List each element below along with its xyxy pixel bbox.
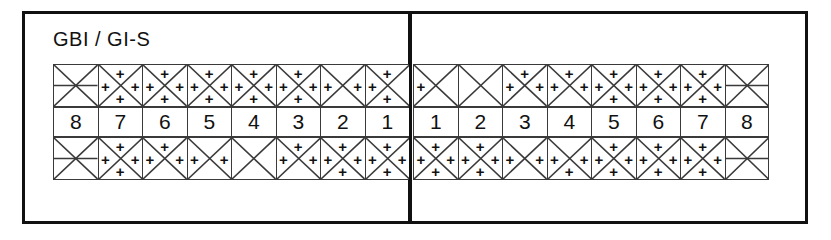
tooth-number-cell: 2 bbox=[458, 107, 503, 137]
tooth-number-cell: 7 bbox=[680, 107, 725, 137]
upper-surface-row: +++++++++++++++++++++++++ ++++++++++++++… bbox=[53, 64, 769, 107]
tooth-surface-cell[interactable]: + bbox=[413, 64, 458, 107]
tooth-surface-cell[interactable]: ++ bbox=[187, 137, 232, 180]
tooth-surface-cell[interactable] bbox=[725, 64, 770, 107]
periodontal-chart-grid: +++++++++++++++++++++++++ ++++++++++++++… bbox=[53, 64, 769, 180]
tooth-number-cell: 6 bbox=[636, 107, 681, 137]
tooth-surface-cell[interactable]: ++++ bbox=[591, 64, 636, 107]
tooth-surface-cell[interactable]: ++++ bbox=[458, 137, 503, 180]
tooth-number-cell: 3 bbox=[502, 107, 547, 137]
tooth-surface-cell[interactable]: ++++ bbox=[142, 64, 187, 107]
tooth-surface-cell[interactable]: +++ bbox=[365, 64, 410, 107]
tooth-number-row: 87654321 12345678 bbox=[53, 107, 769, 137]
tooth-surface-cell[interactable]: ++++ bbox=[320, 137, 365, 180]
page-title: GBI / GI-S bbox=[53, 28, 150, 51]
tooth-number-cell: 5 bbox=[591, 107, 636, 137]
tooth-surface-cell[interactable]: ++++ bbox=[680, 137, 725, 180]
tooth-number-cell: 4 bbox=[231, 107, 276, 137]
tooth-surface-cell[interactable] bbox=[725, 137, 770, 180]
tooth-number-cell: 5 bbox=[187, 107, 232, 137]
tooth-surface-cell[interactable]: +++ bbox=[547, 64, 592, 107]
tooth-surface-cell[interactable]: ++++ bbox=[98, 137, 143, 180]
tooth-surface-cell[interactable]: ++++ bbox=[231, 64, 276, 107]
tooth-number-cell: 7 bbox=[98, 107, 143, 137]
tooth-number-cell: 8 bbox=[53, 107, 98, 137]
tooth-number-cell: 1 bbox=[365, 107, 410, 137]
tooth-surface-cell[interactable] bbox=[458, 64, 503, 107]
tooth-surface-cell[interactable]: ++++ bbox=[636, 137, 681, 180]
tooth-surface-cell[interactable] bbox=[53, 137, 98, 180]
tooth-surface-cell[interactable]: ++++ bbox=[413, 137, 458, 180]
tooth-surface-cell[interactable]: +++ bbox=[142, 137, 187, 180]
tooth-surface-cell[interactable]: ++++ bbox=[98, 64, 143, 107]
tooth-number-cell: 8 bbox=[725, 107, 770, 137]
tooth-surface-cell[interactable]: ++++ bbox=[591, 137, 636, 180]
chart-page: GBI / GI-S +++++++++++++++++++++++++ +++… bbox=[0, 0, 831, 240]
tooth-surface-cell[interactable] bbox=[231, 137, 276, 180]
lower-surface-row: ++++++++++++++++++++ +++++++++++++++++++… bbox=[53, 137, 769, 180]
tooth-surface-cell[interactable]: ++++ bbox=[365, 137, 410, 180]
tooth-surface-cell[interactable]: ++ bbox=[320, 64, 365, 107]
tooth-number-cell: 1 bbox=[413, 107, 458, 137]
tooth-number-cell: 2 bbox=[320, 107, 365, 137]
tooth-number-cell: 6 bbox=[142, 107, 187, 137]
tooth-surface-cell[interactable]: ++++ bbox=[187, 64, 232, 107]
tooth-surface-cell[interactable]: +++ bbox=[547, 137, 592, 180]
tooth-surface-cell[interactable]: +++ bbox=[276, 137, 321, 180]
tooth-surface-cell[interactable]: ++++ bbox=[276, 64, 321, 107]
tooth-number-cell: 4 bbox=[547, 107, 592, 137]
tooth-surface-cell[interactable]: +++ bbox=[502, 64, 547, 107]
tooth-surface-cell[interactable] bbox=[53, 64, 98, 107]
tooth-surface-cell[interactable]: ++++ bbox=[636, 64, 681, 107]
tooth-number-cell: 3 bbox=[276, 107, 321, 137]
tooth-surface-cell[interactable]: ++++ bbox=[680, 64, 725, 107]
tooth-surface-cell[interactable]: ++ bbox=[502, 137, 547, 180]
